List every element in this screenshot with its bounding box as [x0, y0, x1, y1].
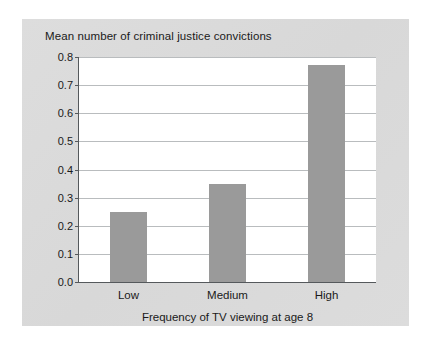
y-tick-mark: [75, 226, 79, 227]
y-tick-label: 0.2: [58, 220, 73, 232]
y-tick-label: 0.4: [58, 164, 73, 176]
y-tick-mark: [75, 113, 79, 114]
y-tick-mark: [75, 198, 79, 199]
y-tick-mark: [75, 170, 79, 171]
plot-area: 0.80.70.60.50.40.30.20.10.0 LowMediumHig…: [78, 57, 376, 283]
figure: Mean number of criminal justice convicti…: [0, 0, 435, 341]
bar: [110, 212, 147, 282]
x-axis-title: Frequency of TV viewing at age 8: [79, 311, 376, 323]
x-tick-label: Medium: [207, 289, 248, 301]
x-tick-label: High: [315, 289, 339, 301]
y-tick-mark: [75, 141, 79, 142]
y-tick-label: 0.6: [58, 107, 73, 119]
y-tick-label: 0.8: [58, 51, 73, 63]
bar: [308, 65, 345, 282]
chart-panel: Mean number of criminal justice convicti…: [22, 19, 409, 326]
y-tick-mark: [75, 282, 79, 283]
y-tick-label: 0.5: [58, 135, 73, 147]
y-tick-label: 0.1: [58, 248, 73, 260]
x-tick-label: Low: [118, 289, 139, 301]
gridline: [79, 57, 376, 58]
y-tick-mark: [75, 85, 79, 86]
y-tick-label: 0.7: [58, 79, 73, 91]
y-tick-mark: [75, 254, 79, 255]
chart-title: Mean number of criminal justice convicti…: [45, 30, 272, 42]
bar: [209, 184, 246, 282]
y-tick-mark: [75, 57, 79, 58]
y-tick-label: 0.0: [58, 276, 73, 288]
y-tick-label: 0.3: [58, 192, 73, 204]
